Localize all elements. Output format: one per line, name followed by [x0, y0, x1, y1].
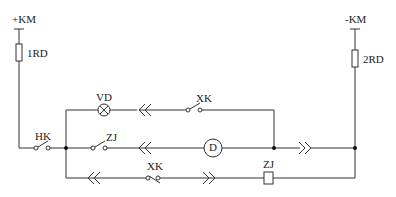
zj-contact-icon — [91, 146, 95, 150]
junction-node — [353, 146, 357, 150]
fuse-1rd-icon — [16, 44, 22, 61]
fuse-right-label: 2RD — [363, 54, 384, 65]
switch-top-label: XK — [196, 93, 212, 104]
hk-switch-contact-icon — [34, 146, 38, 150]
neg-bus-label: -KM — [345, 14, 366, 25]
relay-contact-label: ZJ — [106, 132, 117, 143]
fuse-2rd-icon — [352, 50, 358, 67]
junction-node — [64, 146, 68, 150]
motor-label: D — [209, 142, 217, 153]
switch-bottom-label: XK — [147, 161, 163, 172]
relay-coil-zj-icon — [264, 172, 273, 184]
junction-node — [272, 146, 276, 150]
pos-bus-label: +KM — [12, 14, 36, 25]
main-switch-label: HK — [35, 131, 51, 142]
relay-coil-label: ZJ — [263, 159, 274, 170]
fuse-left-label: 1RD — [27, 48, 48, 59]
lamp-label: VD — [96, 92, 112, 103]
xk-top-switch-icon — [186, 108, 190, 112]
